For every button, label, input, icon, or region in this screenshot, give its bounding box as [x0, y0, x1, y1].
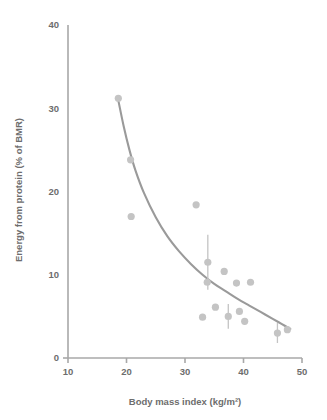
- data-point: [247, 279, 254, 286]
- x-tick-label: 50: [297, 366, 308, 377]
- x-tick-label: 20: [121, 366, 132, 377]
- data-point: [284, 326, 291, 333]
- x-axis-title: Body mass index (kg/m²): [129, 396, 241, 407]
- data-point: [274, 329, 281, 336]
- data-point: [199, 314, 206, 321]
- data-point: [115, 95, 122, 102]
- data-point: [225, 313, 232, 320]
- y-tick-label: 30: [48, 103, 59, 114]
- data-point: [236, 308, 243, 315]
- data-point: [204, 279, 211, 286]
- y-tick-label: 0: [54, 352, 59, 363]
- y-axis-ticks: 010203040: [48, 19, 68, 363]
- chart-figure: 010203040 1020304050 Body mass index (kg…: [0, 0, 327, 420]
- x-tick-label: 10: [63, 366, 74, 377]
- y-tick-label: 20: [48, 186, 59, 197]
- y-tick-label: 40: [48, 19, 59, 30]
- data-point: [193, 201, 200, 208]
- y-axis-title: Energy from protein (% of BMR): [13, 118, 24, 262]
- scatter-plot: 010203040 1020304050 Body mass index (kg…: [0, 0, 327, 420]
- x-tick-label: 40: [238, 366, 249, 377]
- data-points: [115, 95, 291, 337]
- x-axis-ticks: 1020304050: [63, 358, 308, 377]
- data-point: [127, 156, 134, 163]
- error-bars: [208, 235, 278, 343]
- data-point: [128, 213, 135, 220]
- y-tick-label: 10: [48, 269, 59, 280]
- fit-curve: [118, 97, 291, 328]
- x-tick-label: 30: [180, 366, 191, 377]
- data-point: [212, 304, 219, 311]
- fit-curve-path: [118, 97, 291, 328]
- data-point: [241, 318, 248, 325]
- data-point: [221, 268, 228, 275]
- data-point: [204, 259, 211, 266]
- data-point: [233, 279, 240, 286]
